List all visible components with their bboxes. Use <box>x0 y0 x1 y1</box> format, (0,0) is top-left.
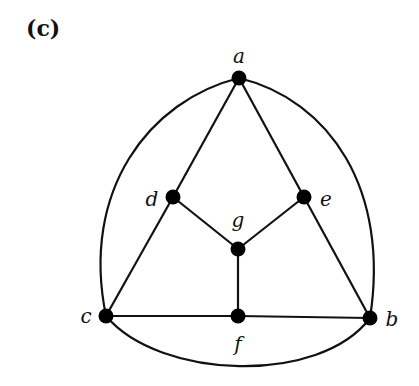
edge-d-g <box>173 197 238 249</box>
node-label-c: c <box>80 304 91 328</box>
node-e <box>297 190 312 205</box>
edge-a-d <box>173 78 239 197</box>
panel-label: (c) <box>26 15 60 41</box>
node-b <box>363 311 378 326</box>
node-c <box>99 309 114 324</box>
node-label-d: d <box>146 187 159 211</box>
node-g <box>231 242 246 257</box>
node-f <box>231 309 246 324</box>
node-label-f: f <box>232 332 245 356</box>
node-label-b: b <box>386 307 399 331</box>
node-d <box>166 190 181 205</box>
edge-f-b <box>238 316 370 318</box>
node-label-a: a <box>233 44 245 68</box>
edge-d-c <box>106 197 173 316</box>
edge-e-g <box>238 197 304 249</box>
graph-diagram: (c) abcdefg <box>0 0 419 386</box>
node-label-g: g <box>232 208 245 232</box>
node-a <box>232 71 247 86</box>
node-label-e: e <box>320 187 332 211</box>
edge-e-b <box>304 197 370 318</box>
edge-a-e <box>239 78 304 197</box>
